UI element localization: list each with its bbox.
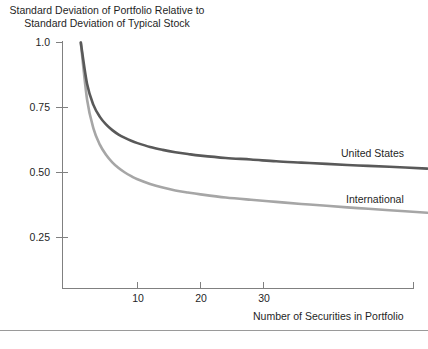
y-tick-label-0.50: 0.50 bbox=[14, 166, 50, 178]
x-tick-label-30: 30 bbox=[250, 292, 278, 304]
y-tick-label-0.75: 0.75 bbox=[14, 101, 50, 113]
x-tick-label-10: 10 bbox=[124, 292, 152, 304]
chart-figure: Standard Deviation of Portfolio Relative… bbox=[0, 0, 428, 349]
x-axis-title: Number of Securities in Portfolio bbox=[253, 310, 404, 322]
series-paths bbox=[81, 43, 428, 213]
footer-divider bbox=[0, 330, 428, 331]
series-label-international: International bbox=[346, 193, 404, 205]
series-line-international bbox=[81, 43, 428, 213]
y-tick-label-1.0: 1.0 bbox=[14, 36, 50, 48]
y-tick-label-0.25: 0.25 bbox=[14, 231, 50, 243]
series-label-united-states: United States bbox=[341, 147, 404, 159]
x-tick-label-20: 20 bbox=[187, 292, 215, 304]
